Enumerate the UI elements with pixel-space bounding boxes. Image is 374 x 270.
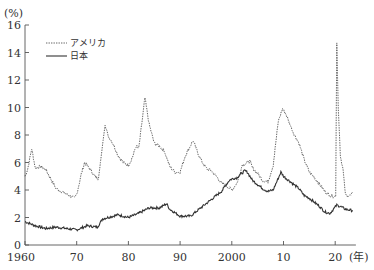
y-tick-label: 8 bbox=[14, 129, 21, 142]
x-tick-label: 10 bbox=[277, 251, 291, 264]
series-us-line bbox=[25, 43, 353, 198]
y-tick-label: 10 bbox=[7, 102, 21, 115]
x-tick-label: 70 bbox=[70, 251, 84, 264]
x-tick-label: 2000 bbox=[218, 251, 246, 264]
y-tick-label: 12 bbox=[7, 74, 21, 87]
x-tick-label: 20 bbox=[328, 251, 342, 264]
series-jp-line bbox=[25, 170, 353, 231]
x-axis-unit-label: (年) bbox=[349, 250, 369, 264]
x-axis: 196070809020001020 bbox=[7, 241, 356, 264]
legend-us-label: アメリカ bbox=[70, 38, 106, 48]
y-tick-label: 14 bbox=[7, 47, 21, 60]
y-tick-label: 6 bbox=[14, 157, 21, 170]
x-tick-label: 80 bbox=[121, 251, 135, 264]
x-tick-label: 1960 bbox=[7, 251, 35, 264]
legend: アメリカ 日本 bbox=[46, 38, 106, 61]
y-axis: 0246810121416 bbox=[7, 19, 29, 252]
y-tick-label: 2 bbox=[14, 212, 21, 225]
line-chart: (%) 0246810121416 196070809020001020 (年)… bbox=[0, 0, 374, 270]
legend-jp-label: 日本 bbox=[70, 50, 88, 61]
y-tick-label: 4 bbox=[14, 184, 21, 197]
x-tick-label: 90 bbox=[173, 251, 187, 264]
y-tick-label: 16 bbox=[7, 19, 21, 32]
